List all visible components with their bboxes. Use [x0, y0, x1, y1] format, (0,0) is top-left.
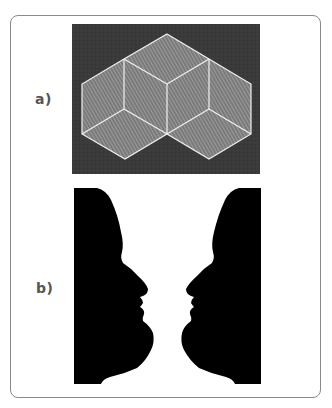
left-face-silhouette — [74, 188, 154, 384]
panel-a-cubes — [72, 24, 260, 174]
right-face-silhouette — [181, 188, 261, 384]
illusion-figures — [0, 0, 332, 408]
panel-b-faces — [74, 188, 261, 384]
